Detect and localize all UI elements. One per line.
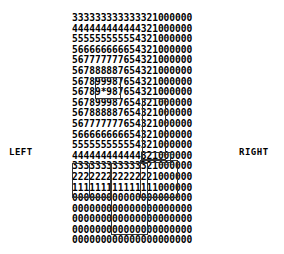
distance-grid: 333333333333321000000 444444444444321000… bbox=[72, 13, 192, 246]
right-label: RIGHT bbox=[239, 147, 269, 157]
left-label: LEFT bbox=[9, 147, 33, 157]
grid-row: 000000000000000000000 bbox=[72, 235, 192, 246]
grid-row: 567888887654321000000 bbox=[72, 66, 192, 77]
grid-row: 222222222222221000000 bbox=[72, 172, 192, 183]
grid-row: 333333333333321000000 bbox=[72, 13, 192, 24]
grid-row: 567777777654321000000 bbox=[72, 119, 192, 130]
